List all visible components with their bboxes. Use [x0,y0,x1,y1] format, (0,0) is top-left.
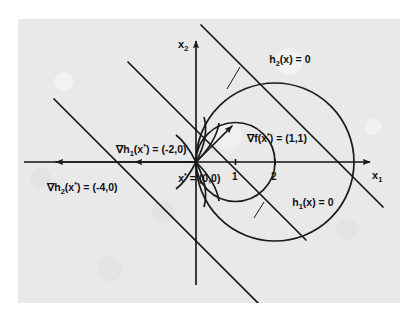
figure-panel: x1 x2 1 2 x* = (0,0) ∇f(x*) = (1,1) ∇h1(… [18,19,400,303]
constraint-h2-label: h2(x) = 0 [243,53,331,68]
tick-label-2: 2 [271,171,277,182]
grad-h1-label-rest: ) = (-2,0) [146,143,187,155]
x1-axis-label: x1 [372,169,382,184]
leader-h2 [227,67,240,89]
level-line-group [54,25,383,303]
grad-h1-label-open: (x [134,143,143,155]
x2-axis-label: x2 [178,38,188,53]
grad-h2-label-open: (x [65,181,74,193]
grad-h2-label: ∇h2(x*) = (-4,0) [21,181,138,196]
grad-f-label-rest: ) = (1,1) [270,132,307,144]
constraint-h1-label: h1(x) = 0 [266,196,354,211]
x1-axis-label-sub: 1 [378,175,382,184]
grad-h2-label-rest: ) = (-4,0) [77,181,118,193]
grad-f-label: ∇f(x*) = (1,1) [221,132,327,144]
leader-h1 [254,202,264,218]
x2-axis-label-sub: 2 [184,44,188,53]
optimum-point-label: x* = (0,0) [152,172,241,184]
grad-h2-label-main: ∇h [46,181,60,193]
grad-h1-label: ∇h1(x*) = (-2,0) [90,143,207,158]
diagram-canvas: x1 x2 1 2 x* = (0,0) ∇f(x*) = (1,1) ∇h1(… [18,19,400,303]
constraint-h1-label-rest: (x) = 0 [303,196,334,208]
grad-h1-label-main: ∇h [115,143,129,155]
grad-f-label-main: ∇f(x [246,132,267,144]
optimum-point-label-rest: = (0,0) [187,172,221,184]
figure-root: x1 x2 1 2 x* = (0,0) ∇f(x*) = (1,1) ∇h1(… [0,0,418,324]
constraint-h2-label-rest: (x) = 0 [280,53,311,65]
